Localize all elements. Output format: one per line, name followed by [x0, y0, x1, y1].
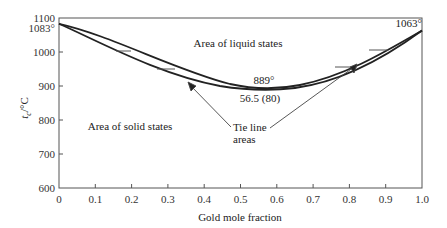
liquid-area-label: Area of liquid states — [194, 37, 283, 49]
x-tick-0: 0 — [56, 193, 62, 205]
y-axis-title: tc/°C — [18, 97, 33, 118]
x-tick-labels: 0 0.1 0.2 0.3 0.4 0.5 0.6 0.7 0.8 0.9 1.… — [56, 193, 429, 205]
y-tick-800: 800 — [39, 114, 56, 126]
y-tick-labels: 1100 1000 900 800 700 600 — [33, 12, 56, 194]
x-tick-0-9: 0.9 — [379, 193, 393, 205]
x-tick-0-5: 0.5 — [234, 193, 248, 205]
x-tick-0-6: 0.6 — [270, 193, 284, 205]
x-tick-0-2: 0.2 — [125, 193, 139, 205]
solid-area-label: Area of solid states — [88, 120, 173, 132]
y-axis-ticks — [59, 52, 63, 154]
x-axis-ticks — [95, 184, 385, 188]
y-tick-700: 700 — [39, 148, 56, 160]
x-tick-0-4: 0.4 — [197, 193, 211, 205]
liquidus-curve — [59, 24, 422, 88]
x-tick-0-8: 0.8 — [343, 193, 357, 205]
solidus-curve — [59, 24, 422, 90]
x-tick-0-3: 0.3 — [161, 193, 175, 205]
phase-diagram: 1100 1000 900 800 700 600 1083° 0 0.1 0.… — [0, 0, 447, 228]
y-tick-900: 900 — [39, 80, 56, 92]
right-melting-point-label: 1063° — [396, 17, 422, 29]
tie-lines — [116, 50, 388, 69]
y-axis-title-unit: /°C — [18, 97, 30, 112]
x-tick-0-7: 0.7 — [306, 193, 320, 205]
y-tick-1000: 1000 — [33, 46, 56, 58]
y-tick-600: 600 — [39, 182, 56, 194]
tie-line-label-2: areas — [233, 133, 256, 145]
svg-text:tc/°C: tc/°C — [18, 97, 33, 118]
x-tick-0-1: 0.1 — [88, 193, 102, 205]
x-tick-1-0: 1.0 — [415, 193, 429, 205]
tie-line-label-1: Tie line — [233, 121, 267, 133]
minimum-temp-label: 889° — [254, 74, 275, 86]
left-melting-point-label: 1083° — [29, 22, 55, 34]
minimum-composition-label: 56.5 (80) — [240, 92, 281, 105]
x-axis-title: Gold mole fraction — [198, 211, 282, 223]
